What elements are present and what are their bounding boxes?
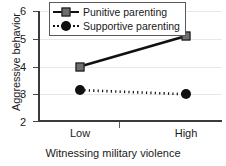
x-axis-title: Witnessing military violence bbox=[0, 147, 226, 159]
legend-key-circle-dotted-icon bbox=[53, 20, 79, 32]
y-tick-label-6: 6 bbox=[20, 6, 26, 17]
y-tick-label-3: 3 bbox=[20, 89, 26, 100]
y-tick-label-2: 2 bbox=[20, 117, 26, 128]
legend-item-supportive-parenting: Supportive parenting bbox=[53, 19, 180, 33]
data-point-punitive-low bbox=[76, 62, 85, 71]
legend-key-square-solid-icon bbox=[53, 6, 79, 18]
legend-item-punitive-parenting: Punitive parenting bbox=[53, 5, 180, 19]
legend: Punitive parenting Supportive parenting bbox=[49, 2, 186, 36]
legend-label-supportive-parenting: Supportive parenting bbox=[83, 21, 180, 32]
x-tick-label-low: Low bbox=[70, 127, 90, 139]
legend-label-punitive-parenting: Punitive parenting bbox=[83, 7, 167, 18]
x-tick-label-high: High bbox=[175, 127, 198, 139]
x-tick-mark-center bbox=[119, 122, 120, 128]
data-point-supportive-high bbox=[181, 89, 191, 99]
chart-container: Aggressive behavior 6 5 4 3 2 bbox=[0, 0, 226, 166]
y-tick-label-4: 4 bbox=[20, 61, 26, 72]
line-punitive-parenting bbox=[80, 36, 186, 67]
line-supportive-parenting bbox=[80, 90, 186, 94]
data-point-supportive-low bbox=[75, 85, 85, 95]
y-tick-label-5: 5 bbox=[20, 33, 26, 44]
